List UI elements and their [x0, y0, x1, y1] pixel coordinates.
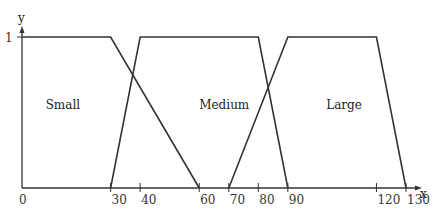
x-tick-label-30: 30: [112, 193, 127, 207]
label-large: Large: [326, 98, 362, 112]
label-medium: Medium: [199, 98, 250, 112]
series-small: [22, 37, 199, 188]
y-axis-arrow-icon: [20, 26, 25, 33]
x-tick-label-70: 70: [230, 193, 245, 207]
x-tick-label-60: 60: [200, 193, 215, 207]
x-tick-labels: 0304060708090120130: [19, 193, 430, 207]
y-axis-label: y: [17, 11, 25, 25]
x-tick-label-40: 40: [141, 193, 156, 207]
series-medium: [111, 37, 288, 188]
x-tick-label-120: 120: [377, 193, 400, 207]
x-tick-label-0: 0: [19, 193, 27, 207]
x-tick-label-130: 130: [407, 193, 430, 207]
x-tick-label-80: 80: [259, 193, 274, 207]
x-tick-label-90: 90: [289, 193, 304, 207]
region-labels: SmallMediumLarge: [46, 98, 362, 112]
series-large: [229, 37, 406, 188]
y-tick-label-1: 1: [5, 31, 13, 45]
series-group: [22, 37, 406, 188]
fuzzy-membership-chart: y x 1 0304060708090120130 SmallMediumLar…: [0, 0, 437, 214]
label-small: Small: [46, 98, 81, 112]
